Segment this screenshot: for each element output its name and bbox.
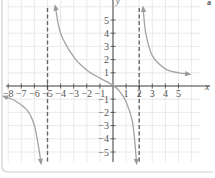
svg-text:−3: −3 — [98, 120, 109, 131]
svg-text:2: 2 — [104, 54, 109, 65]
svg-text:−3: −3 — [68, 88, 79, 99]
svg-text:−4: −4 — [98, 133, 109, 144]
svg-text:5: 5 — [176, 88, 181, 99]
curve-branch — [4, 97, 41, 163]
graph-figure: −8−7−6−5−4−3−2−11234554321−1−2−3−4−5 x y… — [0, 0, 215, 178]
svg-text:−6: −6 — [29, 88, 40, 99]
svg-text:−4: −4 — [55, 88, 66, 99]
svg-text:5: 5 — [104, 15, 109, 26]
y-axis-label: y — [115, 0, 120, 6]
x-axis-label: x — [204, 81, 210, 92]
svg-text:3: 3 — [104, 41, 109, 52]
svg-text:−5: −5 — [42, 88, 53, 99]
svg-text:−7: −7 — [16, 88, 27, 99]
svg-text:4: 4 — [163, 88, 168, 99]
svg-text:−2: −2 — [81, 88, 92, 99]
svg-text:3: 3 — [150, 88, 155, 99]
svg-text:2: 2 — [137, 88, 142, 99]
svg-text:4: 4 — [104, 28, 109, 39]
svg-text:−2: −2 — [98, 107, 109, 118]
svg-text:1: 1 — [104, 67, 109, 78]
svg-text:−1: −1 — [98, 94, 109, 105]
corner-label: a — [207, 0, 211, 7]
svg-text:−5: −5 — [98, 147, 109, 158]
curve-branch — [143, 8, 189, 74]
